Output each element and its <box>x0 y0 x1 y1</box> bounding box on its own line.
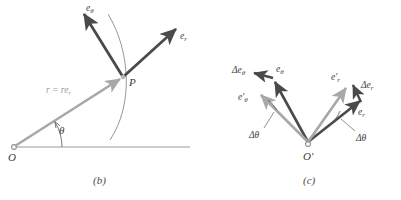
delta-e-theta-text: Δe <box>231 65 242 75</box>
e-theta-subscript-c: θ <box>280 68 284 76</box>
svg-text:Δeθ: Δeθ <box>231 65 246 77</box>
panel-b-caption: (b) <box>93 174 106 187</box>
svg-text:r = rer: r = rer <box>46 85 71 96</box>
delta-theta-right-label: Δθ <box>355 133 367 143</box>
svg-text:e′θ: e′θ <box>238 92 248 104</box>
e-theta-prime-origin-vector <box>275 82 308 142</box>
e-r-label-c: er <box>358 107 365 119</box>
e-theta-label-c: eθ <box>276 64 284 76</box>
origin-label: O <box>8 151 16 163</box>
e-r-label: er <box>180 31 187 43</box>
e-theta-rotated-vector <box>261 95 308 142</box>
svg-text:er: er <box>180 31 187 43</box>
delta-e-r-subscript: r <box>371 84 374 92</box>
delta-e-theta-label: Δeθ <box>231 65 246 77</box>
point-P-label: P <box>128 76 136 88</box>
svg-text:eθ: eθ <box>276 64 284 76</box>
delta-theta-right-leader <box>341 119 355 131</box>
position-vector-text: r = r <box>46 85 65 95</box>
origin-O-prime-label: O′ <box>303 150 314 162</box>
delta-theta-left-label: Δθ <box>248 130 260 140</box>
svg-text:eθ: eθ <box>86 3 94 15</box>
svg-text:e′r: e′r <box>331 72 340 84</box>
svg-text:er: er <box>358 107 365 119</box>
e-theta-prime-label: e′θ <box>238 92 248 104</box>
e-theta-label: eθ <box>86 3 94 15</box>
e-theta-vector-arrow <box>84 14 123 77</box>
point-P-marker <box>121 75 125 79</box>
svg-text:Δer: Δer <box>360 80 374 92</box>
delta-e-r-label: Δer <box>360 80 374 92</box>
delta-e-r-vector <box>353 85 361 102</box>
delta-theta-left-leader <box>264 112 274 128</box>
e-r-vector-arrow <box>123 29 176 77</box>
physics-figure: O P θ r = rer eθ er (b) <box>0 0 401 200</box>
panel-c: O′ Δeθ eθ e′θ Δθ e′r Δer <box>231 64 374 187</box>
panel-c-caption: (c) <box>303 174 316 187</box>
e-r-prime-subscript: r <box>337 76 340 84</box>
position-vector-subscript: r <box>68 89 71 96</box>
theta-angle-label: θ <box>59 124 65 136</box>
delta-e-theta-subscript: θ <box>242 69 246 77</box>
position-vector-label: r = rer <box>46 85 71 96</box>
e-theta-prime-subscript: θ <box>244 96 248 104</box>
panel-b: O P θ r = rer eθ er (b) <box>8 3 190 187</box>
e-r-subscript-c: r <box>362 111 365 119</box>
origin-O-prime-point <box>306 142 311 147</box>
delta-e-r-text: Δe <box>360 80 371 90</box>
e-theta-subscript: θ <box>90 7 94 15</box>
e-r-subscript: r <box>184 35 187 43</box>
delta-e-theta-vector <box>254 73 273 78</box>
e-r-prime-label: e′r <box>331 72 340 84</box>
